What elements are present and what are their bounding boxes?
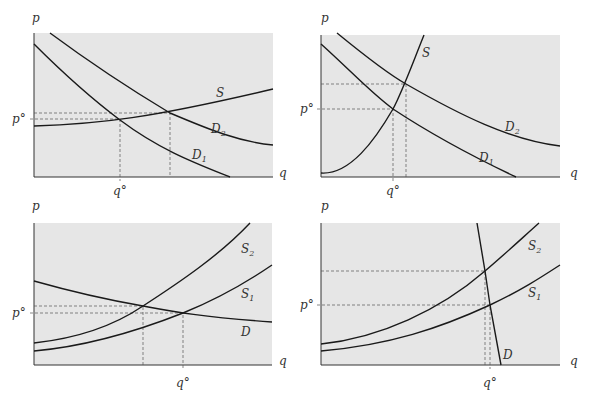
axis-label-q: q [570,354,578,368]
tick-label-qstar: q° [386,184,400,198]
axis-label-q: q [279,354,287,368]
plot-area [34,33,273,177]
panel-top-right: p q p° q° S D2 D1 [300,11,578,198]
curve-label-d: D [240,325,251,339]
plot-area [34,223,272,365]
axis-label-q: q [279,166,287,180]
axis-label-p: p [32,11,40,25]
tick-label-pstar: p° [300,298,314,312]
plot-area [321,35,560,177]
tick-label-pstar: p° [12,306,26,320]
tick-label-qstar: q° [483,376,497,390]
curve-label-s: S [422,46,430,60]
curve-label-s: S [216,86,224,100]
axis-label-p: p [321,199,329,213]
tick-label-pstar: p° [300,102,314,116]
panel-bottom-left: p q p° q° S2 S1 D [12,199,287,390]
panel-bottom-right: p q p° q° S2 S1 D [300,199,578,390]
tick-label-qstar: q° [113,184,127,198]
axis-label-q: q [570,166,578,180]
axis-label-p: p [321,11,329,25]
figure: p q p° q° S D2 D1 p q p° q° S D2 D1 p q [0,0,591,404]
axis-label-p: p [32,199,40,213]
tick-label-qstar: q° [176,376,190,390]
curve-label-d: D [502,348,513,362]
panel-top-left: p q p° q° S D2 D1 [12,11,287,198]
plot-area [321,223,560,365]
tick-label-pstar: p° [12,112,26,126]
